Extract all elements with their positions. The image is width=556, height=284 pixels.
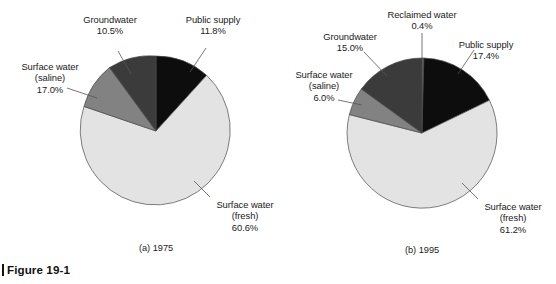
label-groundwater-1975: Groundwater 10.5%: [50, 14, 170, 37]
label-groundwater-name: Groundwater: [323, 31, 377, 42]
label-surface-fresh-qualifier: (fresh): [500, 212, 527, 223]
label-surface-fresh-value: 61.2%: [500, 224, 526, 235]
label-reclaimed-water-name: Reclaimed water: [387, 9, 456, 20]
label-groundwater-1995: Groundwater 15.0%: [295, 31, 405, 54]
label-surface-saline-name: Surface water: [295, 69, 352, 80]
figure-number-label: Figure 19-1: [7, 263, 70, 276]
label-reclaimed-water-value: 0.4%: [411, 20, 432, 31]
label-public-supply-value: 17.4%: [473, 50, 499, 61]
label-surface-fresh-qualifier: (fresh): [232, 210, 259, 221]
label-public-supply-name: Public supply: [186, 14, 241, 25]
chart-caption-1975: (a) 1975: [106, 243, 206, 254]
label-surface-fresh-name: Surface water: [216, 199, 273, 210]
label-surface-fresh-1995: Surface water (fresh) 61.2%: [458, 201, 556, 235]
label-surface-saline-qualifier: (saline): [309, 80, 339, 91]
label-surface-fresh-value: 60.6%: [232, 222, 258, 233]
label-public-supply-name: Public supply: [459, 39, 514, 50]
label-public-supply-1995: Public supply 17.4%: [431, 39, 541, 62]
chart-caption-1995: (b) 1995: [372, 245, 472, 256]
label-groundwater-value: 10.5%: [97, 25, 123, 36]
label-surface-saline-1995: Surface water (saline) 6.0%: [269, 69, 379, 103]
label-surface-saline-value: 6.0%: [313, 92, 334, 103]
label-surface-fresh-name: Surface water: [484, 201, 541, 212]
figure-19-1: Groundwater 10.5% Public supply 11.8% Su…: [0, 0, 556, 284]
label-public-supply-1975: Public supply 11.8%: [158, 14, 268, 37]
label-groundwater-value: 15.0%: [337, 42, 363, 53]
label-surface-saline-name: Surface water: [21, 61, 78, 72]
pie-chart-1995: Reclaimed water 0.4% Groundwater 15.0% P…: [278, 0, 556, 284]
label-surface-saline-qualifier: (saline): [35, 72, 65, 83]
vertical-bar-icon: [2, 264, 4, 276]
pie-chart-1975: Groundwater 10.5% Public supply 11.8% Su…: [0, 0, 278, 284]
label-reclaimed-water-1995: Reclaimed water 0.4%: [367, 9, 477, 32]
label-surface-saline-1975: Surface water (saline) 17.0%: [0, 61, 105, 95]
label-groundwater-name: Groundwater: [83, 14, 137, 25]
label-public-supply-value: 11.8%: [200, 25, 226, 36]
label-surface-saline-value: 17.0%: [37, 84, 63, 95]
